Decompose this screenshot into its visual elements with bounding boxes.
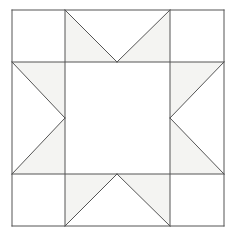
center-square bbox=[65, 62, 170, 174]
quilt-block-canvas bbox=[0, 0, 236, 238]
patch-layer bbox=[12, 10, 224, 226]
corner-top-right bbox=[170, 10, 224, 62]
corner-bottom-left bbox=[12, 174, 65, 226]
corner-top-left bbox=[12, 10, 65, 62]
corner-bottom-right bbox=[170, 174, 224, 226]
quilt-block-diagram bbox=[0, 0, 236, 238]
